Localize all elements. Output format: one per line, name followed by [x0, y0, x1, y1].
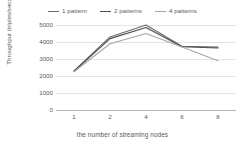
legend-swatch-2-patterns: [100, 11, 111, 12]
legend-label-2-patterns: 2 patterns: [114, 7, 142, 15]
legend-item-1-pattern: 1 pattern: [48, 7, 87, 15]
x-tick-label: 8: [206, 112, 230, 121]
legend-label-4-patterns: 4 patterns: [169, 7, 197, 15]
chart-legend: 1 pattern 2 patterns 4 patterns: [0, 7, 245, 15]
legend-item-2-patterns: 2 patterns: [100, 7, 142, 15]
plot-area: [56, 25, 236, 110]
series-lines: [56, 25, 236, 110]
y-tick-label: 1000: [1, 89, 53, 96]
series-line: [74, 25, 218, 71]
x-tick-label: 4: [134, 112, 158, 121]
y-tick-label: 0: [1, 106, 53, 113]
x-axis-line: [56, 110, 236, 111]
legend-label-1-pattern: 1 pattern: [62, 7, 87, 15]
x-tick-label: 2: [98, 112, 122, 121]
x-tick-label: 6: [170, 112, 194, 121]
y-axis-ticks: 010002000300040005000: [0, 25, 53, 110]
y-tick-label: 5000: [1, 21, 53, 28]
x-tick-label: 1: [62, 112, 86, 121]
legend-item-4-patterns: 4 patterns: [155, 7, 197, 15]
y-tick-label: 4000: [1, 38, 53, 45]
chart-figure: 1 pattern 2 patterns 4 patterns Throughp…: [0, 0, 245, 149]
legend-swatch-1-pattern: [48, 11, 59, 12]
series-line: [74, 34, 218, 72]
y-tick-label: 2000: [1, 72, 53, 79]
x-axis-title: the number of streaming nodes: [0, 130, 245, 139]
x-axis-ticks: 12468: [56, 112, 236, 122]
legend-swatch-4-patterns: [155, 11, 166, 12]
y-tick-label: 3000: [1, 55, 53, 62]
series-line: [74, 28, 218, 72]
